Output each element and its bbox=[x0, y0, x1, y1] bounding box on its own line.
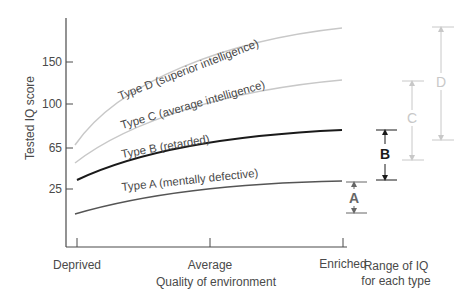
x-axis-title: Quality of environment bbox=[156, 275, 277, 289]
y-tick-65: 65 bbox=[49, 141, 63, 155]
range-bar-b: B bbox=[376, 130, 397, 180]
range-label-c: C bbox=[407, 110, 417, 126]
range-bar-a: A bbox=[346, 182, 367, 213]
curve-type-a: Type A (mentally defective) bbox=[75, 167, 342, 214]
x-axis: Deprived Average Enriched Quality of env… bbox=[53, 238, 367, 289]
x-tick-average: Average bbox=[188, 258, 233, 272]
y-axis: 150 100 65 25 Tested IQ score bbox=[23, 18, 73, 247]
range-label-a: A bbox=[349, 190, 359, 206]
y-tick-100: 100 bbox=[42, 97, 62, 111]
range-bar-c: C bbox=[402, 81, 424, 160]
range-label-b: B bbox=[380, 146, 390, 162]
y-tick-25: 25 bbox=[49, 182, 63, 196]
iq-environment-chart: 150 100 65 25 Tested IQ score Deprived A… bbox=[0, 0, 470, 296]
range-caption-line1: Range of IQ bbox=[364, 259, 429, 273]
curve-type-d: Type D (superior intelligence) bbox=[75, 28, 342, 145]
range-caption: Range of IQ for each type bbox=[361, 259, 431, 288]
range-caption-line2: for each type bbox=[361, 274, 431, 288]
range-bar-d: D bbox=[432, 27, 454, 140]
x-tick-deprived: Deprived bbox=[53, 258, 101, 272]
range-label-d: D bbox=[436, 74, 446, 90]
curve-label-a: Type A (mentally defective) bbox=[121, 167, 259, 193]
y-tick-150: 150 bbox=[42, 55, 62, 69]
y-axis-title: Tested IQ score bbox=[23, 76, 37, 160]
curve-label-b: Type B (retarded) bbox=[120, 133, 210, 160]
x-tick-enriched: Enriched bbox=[319, 257, 366, 271]
curve-type-c: Type C (average intelligence) bbox=[75, 78, 342, 163]
